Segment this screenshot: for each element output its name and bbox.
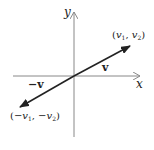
paren-close: ) <box>56 110 60 121</box>
tip-label-neg-v: (−v1, −v2) <box>10 111 60 122</box>
vector-diagram: y x (v1, v2) v −v (−v1, −v2) <box>0 0 154 150</box>
y-axis-label: y <box>64 6 71 18</box>
vector-neg-v-label: −v <box>28 79 44 90</box>
separator: , − <box>32 110 47 121</box>
x-axis-label: x <box>136 78 143 90</box>
paren-open: (− <box>10 110 22 121</box>
tip-label-v: (v1, v2) <box>112 30 145 41</box>
diagram-graphics <box>0 0 154 150</box>
vector-v-label: v <box>102 62 108 73</box>
paren-close: ) <box>141 29 145 40</box>
